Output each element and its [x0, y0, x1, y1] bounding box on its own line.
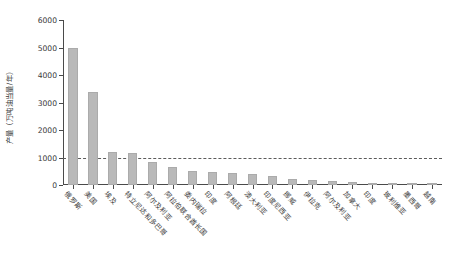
bar [248, 174, 257, 185]
plot-area: 0100020003000400050006000 [63, 20, 442, 185]
y-axis-title-wrap: 产量（万吨油当量/年） [0, 18, 16, 193]
y-axis-tick-label: 0 [52, 181, 57, 190]
bar-slot [328, 20, 337, 185]
bar-slot [308, 20, 317, 185]
x-axis-category-label: 美国 [83, 189, 100, 206]
y-axis-title: 产量（万吨油当量/年） [3, 67, 14, 144]
bar-slot [148, 20, 157, 185]
bar-slot [427, 20, 436, 185]
bar-slot [348, 20, 357, 185]
x-axis-category-label: 俄罗斯 [63, 189, 85, 212]
bar [188, 171, 197, 185]
bar-slot [248, 20, 257, 185]
bar-slot [168, 20, 177, 185]
bar [208, 172, 217, 185]
bar-slot [407, 20, 416, 185]
bar-slot [188, 20, 197, 185]
bar-slot [288, 20, 297, 185]
x-axis-category-label: 越南 [422, 189, 439, 206]
bar-slot [208, 20, 217, 185]
bar-slot [368, 20, 377, 185]
bar [108, 152, 117, 185]
bar [88, 92, 97, 186]
bar-slot [68, 20, 77, 185]
y-axis-tick-label: 1000 [38, 153, 57, 162]
x-axis-category-label: 挪威 [282, 189, 299, 206]
x-axis-category-label: 印度 [202, 189, 219, 206]
bar-slot [88, 20, 97, 185]
x-axis-category-label: 伊拉克 [302, 189, 324, 212]
bar-slot [128, 20, 137, 185]
y-axis-tick-label: 4000 [38, 71, 57, 80]
x-axis-category-label: 埃及 [103, 189, 120, 206]
y-axis-tick-label: 3000 [38, 98, 57, 107]
bar [268, 176, 277, 185]
bar-slot [268, 20, 277, 185]
x-axis-category-labels: 俄罗斯美国埃及特立尼达和多巴哥阿尔及利亚阿拉伯联合酋长国委内瑞拉印度阿根廷澳大利… [63, 189, 442, 267]
x-axis-category-label: 阿根廷 [222, 189, 244, 212]
y-axis-tick-mark [59, 185, 63, 186]
bar-slot [228, 20, 237, 185]
bar-series [63, 20, 442, 185]
bar-slot [388, 20, 397, 185]
bar [68, 48, 77, 186]
x-axis-category-label: 印度 [362, 189, 379, 206]
bar-chart: 产量（万吨油当量/年） 0100020003000400050006000 俄罗… [0, 0, 452, 267]
bar [128, 153, 137, 185]
bar [168, 167, 177, 185]
bar-slot [108, 20, 117, 185]
y-axis-tick-label: 2000 [38, 126, 57, 135]
bar [148, 162, 157, 185]
y-axis-tick-label: 6000 [38, 16, 57, 25]
y-axis-tick-label: 5000 [38, 43, 57, 52]
bar [228, 173, 237, 185]
